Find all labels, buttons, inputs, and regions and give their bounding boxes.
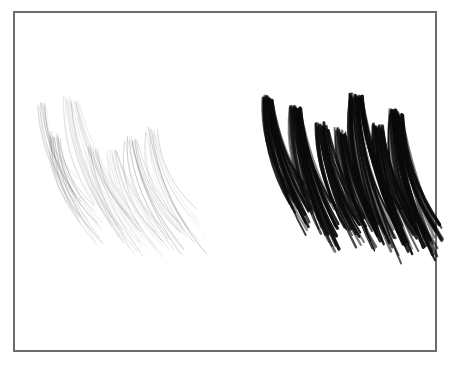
figure-canvas — [0, 0, 452, 365]
figure-root — [0, 0, 452, 365]
